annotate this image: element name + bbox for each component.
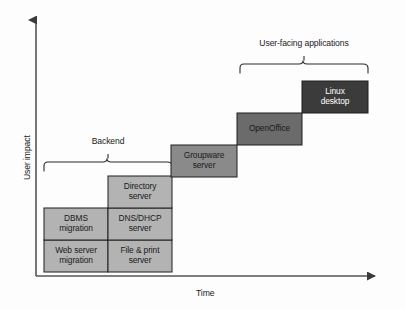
box-directory-server <box>108 176 172 208</box>
box-web-server-migration <box>44 240 108 272</box>
x-axis-label: Time <box>196 288 214 298</box>
backend-brace-path <box>44 154 172 171</box>
user-facing-brace-label: User-facing applications <box>236 38 372 48</box>
box-groupware-server <box>171 145 237 177</box>
box-dns-dhcp-server <box>108 208 172 240</box>
y-axis-label: User impact <box>22 135 32 180</box>
box-linux-desktop <box>302 81 368 113</box>
backend-brace-label: Backend <box>58 136 158 146</box>
user-facing-brace-path <box>240 56 368 73</box>
box-dbms-migration <box>44 208 108 240</box>
step-boxes <box>44 81 368 272</box>
box-openoffice <box>237 113 302 145</box>
staircase-diagram: User impact Time Backend User-facing app… <box>0 0 405 309</box>
box-file-and-print-server <box>108 240 172 272</box>
